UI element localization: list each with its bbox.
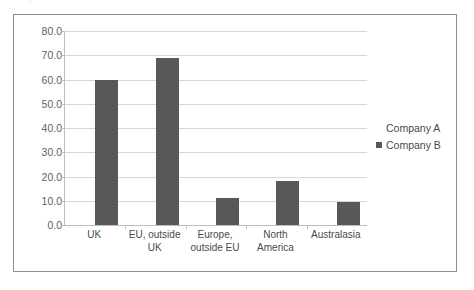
x-axis-category-label: UK — [64, 229, 124, 254]
legend-entry[interactable]: Company B — [376, 136, 454, 153]
y-axis-tick-label: 80.0 — [42, 25, 62, 37]
bar-company-b[interactable] — [216, 198, 239, 225]
x-axis-category-label: EU, outside UK — [124, 229, 184, 254]
y-axis-tick-label: 20.0 — [42, 171, 62, 183]
y-axis-tick-label: 50.0 — [42, 98, 62, 110]
x-axis-labels: UKEU, outside UKEurope, outside EUNorth … — [64, 229, 366, 254]
y-axis-tick-label: 0.0 — [47, 219, 62, 231]
category-slot — [307, 31, 367, 225]
y-axis-tick-label: 70.0 — [42, 49, 62, 61]
y-axis-tick-label: 60.0 — [42, 74, 62, 86]
x-axis-category-label: Europe, outside EU — [185, 229, 245, 254]
legend-swatch-icon — [376, 125, 382, 131]
bar-company-b[interactable] — [337, 202, 360, 225]
bar-group — [186, 31, 246, 225]
bar-group — [125, 31, 185, 225]
category-slot — [125, 31, 185, 225]
plot-area — [64, 31, 367, 226]
bar-company-b[interactable] — [95, 80, 118, 226]
bar-group — [65, 31, 125, 225]
legend-label: Company B — [386, 139, 441, 151]
legend-entry[interactable]: Company A — [376, 119, 454, 136]
chart-plot-wrapper: 0.010.020.030.040.050.060.070.080.0 UKEU… — [14, 15, 456, 271]
bar-company-b[interactable] — [156, 58, 179, 225]
category-slot — [65, 31, 125, 225]
y-axis-tick-label: 10.0 — [42, 195, 62, 207]
y-axis-tick-label: 30.0 — [42, 146, 62, 158]
bar-company-b[interactable] — [276, 181, 299, 225]
y-axis-labels: 0.010.020.030.040.050.060.070.080.0 — [18, 31, 62, 225]
y-axis-tick-mark — [61, 225, 65, 226]
x-axis-category-label: North America — [245, 229, 305, 254]
bar-group — [246, 31, 306, 225]
chart-legend: Company ACompany B — [376, 119, 454, 153]
category-slot — [186, 31, 246, 225]
legend-swatch-icon — [376, 142, 382, 148]
bars-layer — [65, 31, 367, 225]
chart-frame: 0.010.020.030.040.050.060.070.080.0 UKEU… — [13, 14, 457, 272]
category-slot — [246, 31, 306, 225]
bar-group — [307, 31, 367, 225]
clipped-header-text-content: · · , · · · · · — [14, 0, 68, 4]
legend-label: Company A — [386, 122, 440, 134]
clipped-header-text: · · , · · · · · — [0, 0, 474, 9]
y-axis-tick-label: 40.0 — [42, 122, 62, 134]
x-axis-category-label: Australasia — [306, 229, 366, 254]
